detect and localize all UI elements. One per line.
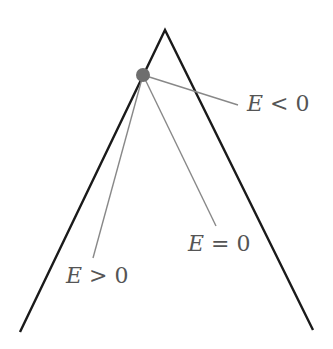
trajectory-e-equal-zero [143,75,216,226]
diagram-canvas: E < 0 E = 0 E > 0 [0,0,333,349]
label-val: 0 [236,231,250,256]
label-var: E [66,263,82,288]
boundary-wedge [20,30,313,332]
label-val: 0 [295,91,309,116]
particle-dot [136,68,150,82]
label-op: < [263,91,295,116]
label-e-less-than-zero: E < 0 [247,93,309,115]
label-val: 0 [114,263,128,288]
label-var: E [188,231,204,256]
label-e-equal-zero: E = 0 [188,233,250,255]
label-e-greater-than-zero: E > 0 [66,265,128,287]
diagram-svg [0,0,333,349]
label-op: = [204,231,236,256]
label-var: E [247,91,263,116]
label-op: > [82,263,114,288]
